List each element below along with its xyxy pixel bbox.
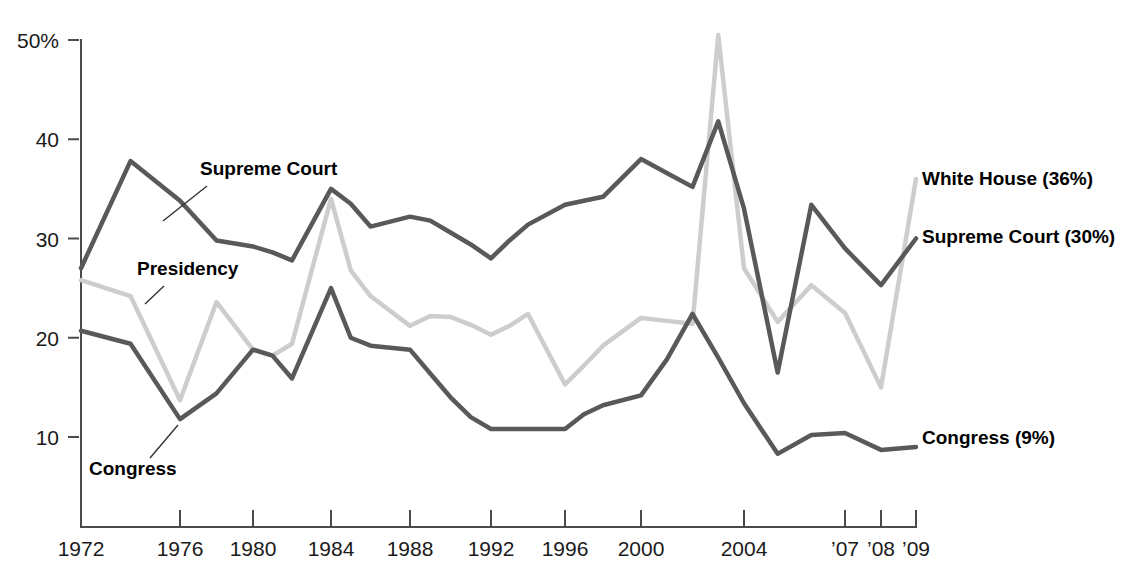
y-tick-label: 40: [36, 128, 59, 151]
x-tick-label: ’08: [867, 537, 895, 560]
line-chart: 50%40302010 1972197619801984198819921996…: [0, 0, 1121, 588]
x-tick-label: ’09: [902, 537, 930, 560]
x-tick-label: 1976: [157, 537, 204, 560]
y-tick-label: 50%: [17, 29, 59, 52]
x-tick-label: 1984: [308, 537, 355, 560]
y-tick-label: 10: [36, 426, 59, 449]
plot-background: [0, 0, 1121, 588]
series-end-label: Congress (9%): [922, 427, 1055, 448]
annotation-label: Supreme Court: [200, 158, 338, 179]
x-tick-label: ’07: [831, 537, 859, 560]
x-tick-label: 1988: [387, 537, 434, 560]
x-tick-label: 1980: [230, 537, 277, 560]
y-tick-label: 30: [36, 228, 59, 251]
x-tick-label: 2000: [618, 537, 665, 560]
series-end-label: White House (36%): [922, 168, 1093, 189]
x-tick-label: 1992: [468, 537, 515, 560]
series-end-label: Supreme Court (30%): [922, 226, 1115, 247]
chart-container: 50%40302010 1972197619801984198819921996…: [0, 0, 1121, 588]
annotation-label: Congress: [89, 458, 177, 479]
x-tick-label: 2004: [721, 537, 768, 560]
x-tick-label: 1996: [542, 537, 589, 560]
y-tick-label: 20: [36, 327, 59, 350]
x-tick-label: 1972: [58, 537, 105, 560]
annotation-label: Presidency: [137, 258, 239, 279]
